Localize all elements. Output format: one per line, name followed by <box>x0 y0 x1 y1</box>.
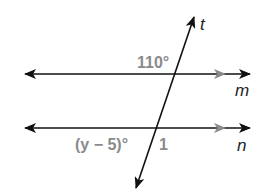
angle-label-y-minus-5: (y − 5)° <box>75 136 128 153</box>
angle-label-110: 110° <box>137 54 169 71</box>
label-t: t <box>200 15 206 34</box>
label-n: n <box>237 136 246 155</box>
line-t <box>136 17 194 188</box>
angle-label-1: 1 <box>159 136 168 153</box>
label-m: m <box>235 81 249 100</box>
geometry-diagram: t m n 110° (y − 5)° 1 <box>0 0 268 196</box>
line-n <box>25 123 250 133</box>
